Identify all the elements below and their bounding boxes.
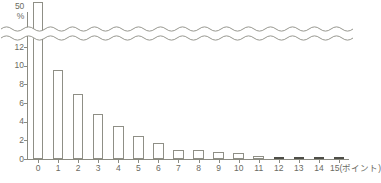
bar-9: [213, 152, 224, 159]
x-tick-mark: [199, 160, 200, 163]
x-tick-mark: [219, 160, 220, 163]
x-tick-mark: [138, 160, 139, 163]
x-tick-mark: [58, 160, 59, 163]
x-tick-mark: [178, 160, 179, 163]
y-tick-mark: [24, 159, 27, 160]
x-tick-label: 5: [136, 164, 141, 173]
x-tick-label: 8: [196, 164, 201, 173]
y-axis-unit: %: [2, 12, 24, 22]
bar-8: [193, 150, 204, 159]
bar-15: [334, 157, 345, 159]
y-tick-label: 10: [2, 61, 24, 70]
x-tick-mark: [279, 160, 280, 163]
y-tick-label: 12: [2, 43, 24, 52]
y-tick-label: 8: [2, 80, 24, 89]
x-tick-label: 11: [254, 164, 263, 173]
y-tick-label: 2: [2, 136, 24, 145]
y-tick-label: 4: [2, 117, 24, 126]
bar-5: [133, 136, 144, 159]
x-tick-mark: [158, 160, 159, 163]
x-tick-label: 1: [56, 164, 61, 173]
plot-area: [28, 12, 349, 159]
bar-10: [233, 153, 244, 159]
bar-13: [294, 157, 305, 159]
x-tick-label: 13: [294, 164, 303, 173]
x-tick-label: 15(ポイント): [330, 164, 381, 173]
bar-1: [53, 70, 64, 159]
bar-0: [33, 2, 44, 159]
bar-3: [93, 114, 104, 159]
bar-6: [153, 143, 164, 159]
x-tick-mark: [118, 160, 119, 163]
x-tick-label: 3: [96, 164, 101, 173]
x-tick-label: 12: [274, 164, 283, 173]
x-tick-label: 10: [234, 164, 243, 173]
x-tick-label: 7: [176, 164, 181, 173]
y-tick-mark: [24, 122, 27, 123]
y-tick-label: 6: [2, 99, 24, 108]
x-tick-mark: [38, 160, 39, 163]
y-axis-top-label: 50 %: [2, 2, 24, 21]
y-tick-mark: [24, 47, 27, 48]
bar-11: [253, 156, 264, 159]
x-tick-mark: [299, 160, 300, 163]
x-tick-mark: [239, 160, 240, 163]
bar-2: [73, 94, 84, 159]
x-tick-mark: [339, 160, 340, 163]
x-tick-label: 14: [314, 164, 323, 173]
x-tick-label: 6: [156, 164, 161, 173]
x-tick-label: 0: [36, 164, 41, 173]
x-tick-mark: [78, 160, 79, 163]
y-tick-label: 0: [2, 155, 24, 164]
bar-7: [173, 150, 184, 159]
x-axis-line: [27, 159, 349, 160]
bar-12: [274, 157, 285, 159]
y-tick-mark: [24, 84, 27, 85]
x-tick-label: 2: [76, 164, 81, 173]
y-tick-mark: [24, 103, 27, 104]
x-tick-mark: [319, 160, 320, 163]
bar-14: [314, 157, 325, 159]
y-tick-mark: [24, 66, 27, 67]
x-tick-label: 4: [116, 164, 121, 173]
bar-4: [113, 126, 124, 159]
x-tick-label: 9: [216, 164, 221, 173]
y-tick-mark: [24, 140, 27, 141]
x-tick-mark: [259, 160, 260, 163]
x-tick-mark: [98, 160, 99, 163]
